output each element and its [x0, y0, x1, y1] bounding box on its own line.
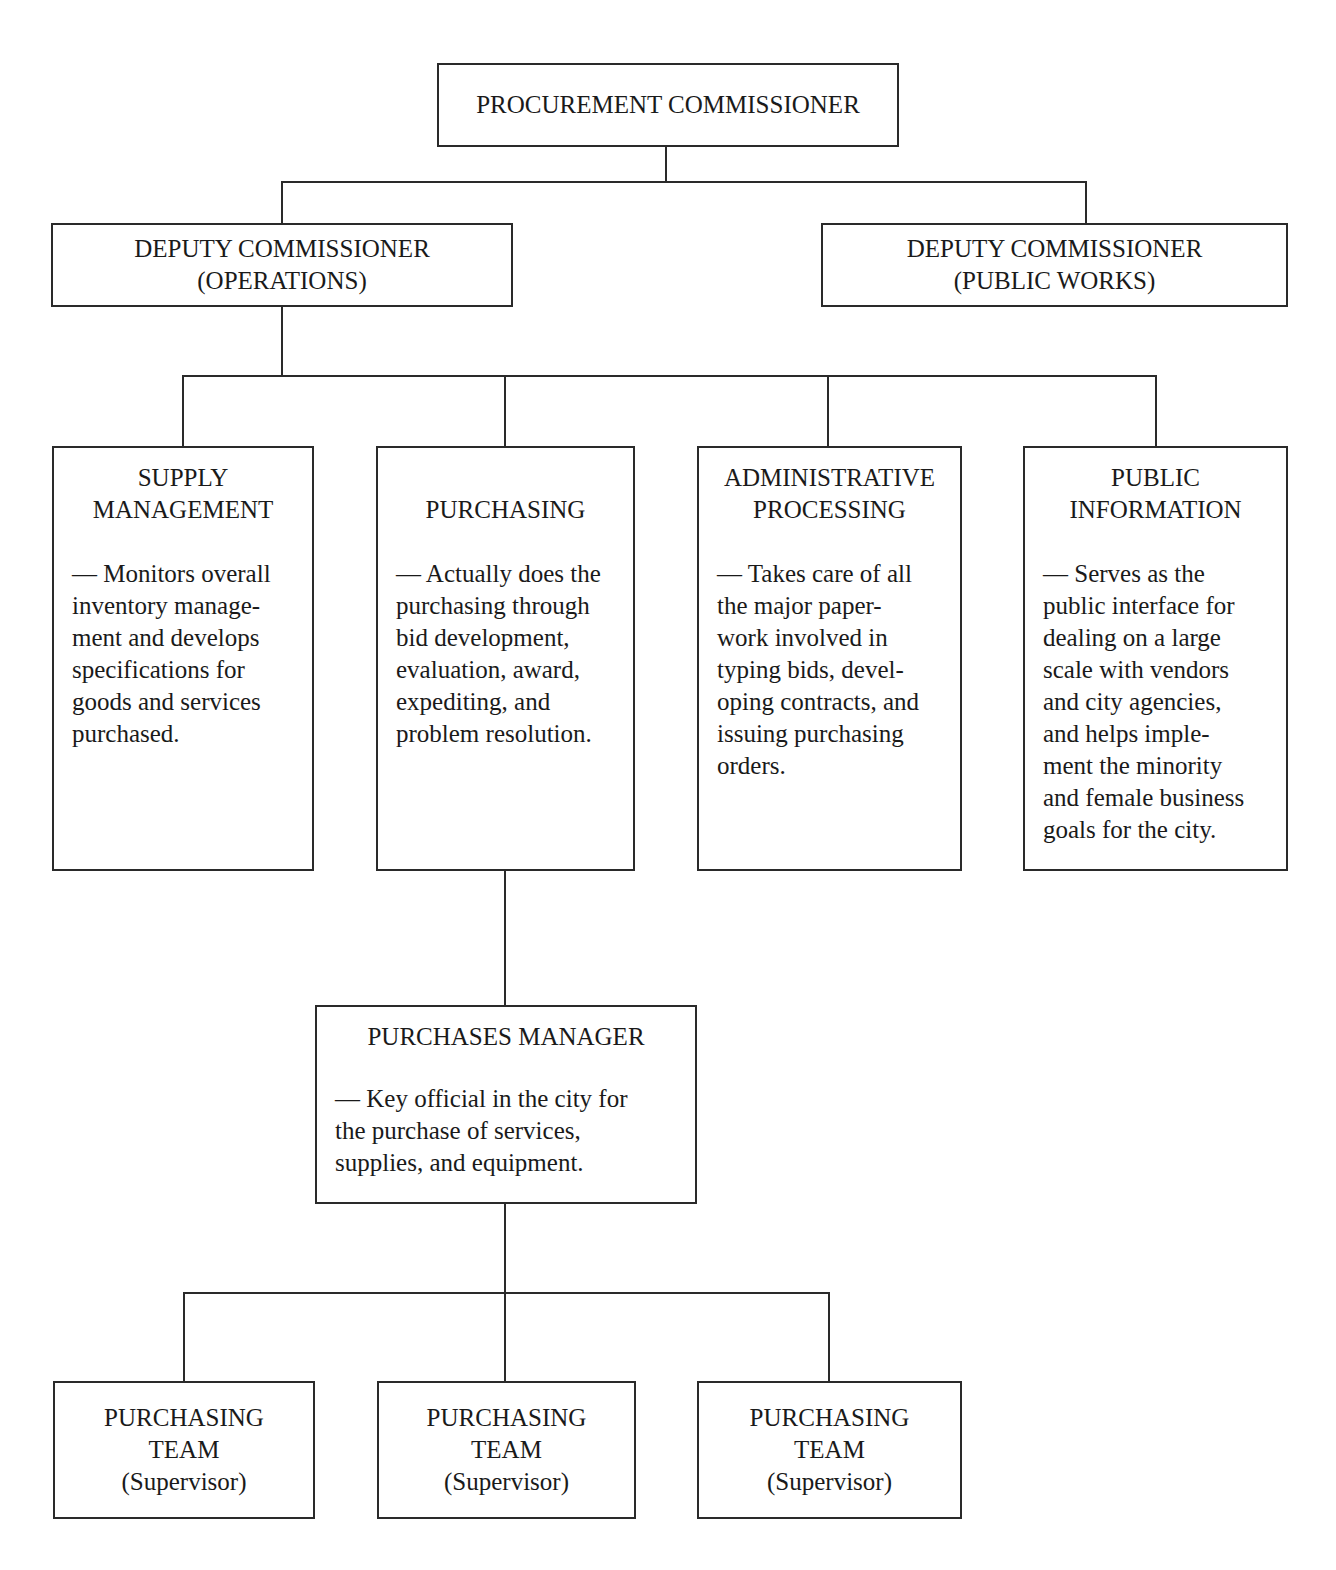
connector-team-1 — [183, 1292, 185, 1382]
connector-division-4 — [1155, 375, 1157, 447]
purchasing-team-2-title: PURCHASING TEAM — [427, 1402, 587, 1466]
division-supply-management-description: — Monitors overall inventory manage- men… — [72, 558, 312, 750]
purchases-manager-title: PURCHASES MANAGER — [317, 1021, 695, 1053]
division-supply-management-box: SUPPLY MANAGEMENT — Monitors overall inv… — [52, 446, 314, 871]
purchases-manager-description: — Key official in the city for the purch… — [335, 1083, 695, 1179]
purchasing-team-3-title: PURCHASING TEAM — [750, 1402, 910, 1466]
connector-top-down — [665, 146, 667, 183]
division-administrative-processing-title: ADMINISTRATIVE PROCESSING — [699, 462, 960, 526]
connector-manager-down — [504, 1202, 506, 1294]
division-administrative-processing-box: ADMINISTRATIVE PROCESSING — Takes care o… — [697, 446, 962, 871]
division-public-information-description: — Serves as the public interface for dea… — [1043, 558, 1286, 846]
division-supply-management-title: SUPPLY MANAGEMENT — [54, 462, 312, 526]
division-purchasing-description: — Actually does the purchasing through b… — [396, 558, 633, 750]
connector-division-2 — [504, 375, 506, 447]
purchasing-team-2-subtitle: (Supervisor) — [444, 1466, 569, 1498]
connector-team-3 — [828, 1292, 830, 1382]
purchasing-team-1-box: PURCHASING TEAM (Supervisor) — [53, 1381, 315, 1519]
deputy-operations-title: DEPUTY COMMISSIONER (OPERATIONS) — [134, 233, 430, 297]
division-purchasing-title: PURCHASING — [378, 462, 633, 526]
purchasing-team-2-box: PURCHASING TEAM (Supervisor) — [377, 1381, 636, 1519]
purchases-manager-box: PURCHASES MANAGER — Key official in the … — [315, 1005, 697, 1204]
connector-teams-bar — [183, 1292, 830, 1294]
deputy-operations-box: DEPUTY COMMISSIONER (OPERATIONS) — [51, 223, 513, 307]
connector-ops-down — [281, 305, 283, 377]
connector-deputies-bar — [281, 181, 1087, 183]
connector-divisions-bar — [182, 375, 1157, 377]
connector-deputy-pw — [1085, 181, 1087, 224]
deputy-public-works-title: DEPUTY COMMISSIONER (PUBLIC WORKS) — [907, 233, 1203, 297]
division-public-information-title: PUBLIC INFORMATION — [1025, 462, 1286, 526]
connector-team-2 — [504, 1292, 506, 1382]
connector-division-1 — [182, 375, 184, 447]
procurement-commissioner-box: PROCUREMENT COMMISSIONER — [437, 63, 899, 147]
division-administrative-processing-description: — Takes care of all the major paper- wor… — [717, 558, 960, 782]
deputy-public-works-box: DEPUTY COMMISSIONER (PUBLIC WORKS) — [821, 223, 1288, 307]
connector-deputy-ops — [281, 181, 283, 224]
purchasing-team-3-subtitle: (Supervisor) — [767, 1466, 892, 1498]
purchasing-team-1-subtitle: (Supervisor) — [122, 1466, 247, 1498]
connector-division-3 — [827, 375, 829, 447]
purchasing-team-1-title: PURCHASING TEAM — [104, 1402, 264, 1466]
procurement-commissioner-title: PROCUREMENT COMMISSIONER — [476, 89, 860, 121]
division-purchasing-box: PURCHASING — Actually does the purchasin… — [376, 446, 635, 871]
purchasing-team-3-box: PURCHASING TEAM (Supervisor) — [697, 1381, 962, 1519]
division-public-information-box: PUBLIC INFORMATION — Serves as the publi… — [1023, 446, 1288, 871]
connector-purchasing-manager — [504, 870, 506, 1006]
